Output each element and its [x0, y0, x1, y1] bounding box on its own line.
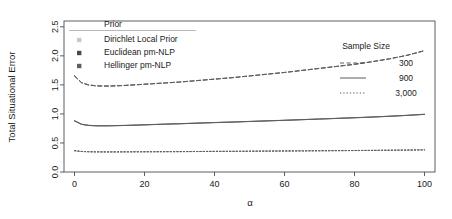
x-tick-label: 100	[417, 179, 432, 189]
chart-figure: Total Situational Error α 0.00.51.01.52.…	[0, 0, 452, 219]
legend-prior-label[interactable]: Hellinger pm-NLP	[104, 60, 171, 70]
legend-prior: PriorDirichlet Local PriorEuclidean pm-N…	[69, 19, 196, 70]
x-axis-ticks: 020406080100	[72, 172, 432, 189]
legend-sample-label[interactable]: 300	[399, 58, 413, 68]
y-tick-label: 0.0	[50, 166, 60, 179]
x-tick-label: 80	[349, 179, 359, 189]
legend-sample-size: Sample Size3009003,000	[340, 41, 417, 98]
legend-sample-label[interactable]: 900	[399, 73, 413, 83]
legend-prior-swatch[interactable]	[77, 38, 81, 42]
y-tick-label: 2.5	[50, 21, 60, 34]
legend-sample-title: Sample Size	[342, 41, 390, 51]
y-axis-ticks: 0.00.51.01.52.02.5	[50, 21, 64, 179]
legend-prior-swatch[interactable]	[77, 64, 81, 68]
x-tick-label: 60	[279, 179, 289, 189]
y-tick-label: 1.5	[50, 79, 60, 92]
legend-prior-swatch[interactable]	[77, 51, 81, 55]
series-line	[75, 114, 425, 126]
x-tick-label: 20	[139, 179, 149, 189]
situational-error-line-chart: Total Situational Error α 0.00.51.01.52.…	[0, 0, 452, 219]
y-axis-title: Total Situational Error	[6, 52, 17, 143]
legend-prior-label[interactable]: Dirichlet Local Prior	[104, 34, 178, 44]
legend-sample-label[interactable]: 3,000	[395, 88, 417, 98]
x-tick-label: 40	[209, 179, 219, 189]
series-line	[75, 114, 425, 126]
y-tick-label: 2.0	[50, 50, 60, 63]
x-axis-title: α	[247, 197, 253, 208]
y-tick-label: 0.5	[50, 137, 60, 150]
legend-prior-label[interactable]: Euclidean pm-NLP	[104, 47, 175, 57]
y-tick-label: 1.0	[50, 108, 60, 121]
series-line	[75, 114, 425, 126]
legend-prior-title: Prior	[104, 19, 122, 29]
x-tick-label: 0	[72, 179, 77, 189]
